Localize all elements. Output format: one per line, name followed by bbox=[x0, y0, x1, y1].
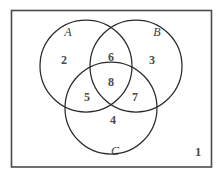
region-number-c-only: 4 bbox=[110, 113, 116, 127]
region-number-a-intersect-b: 6 bbox=[108, 50, 114, 64]
region-number-a-intersect-c: 5 bbox=[84, 90, 90, 104]
venn-diagram-svg: A B C 2 3 4 5 6 7 8 1 bbox=[0, 0, 222, 178]
region-number-b-intersect-c: 7 bbox=[132, 90, 138, 104]
region-number-a-only: 2 bbox=[61, 53, 67, 67]
region-number-outside: 1 bbox=[195, 145, 201, 159]
set-label-a: A bbox=[63, 25, 72, 39]
region-number-a-intersect-b-intersect-c: 8 bbox=[108, 75, 114, 89]
set-label-b: B bbox=[153, 25, 161, 39]
venn-diagram-canvas: A B C 2 3 4 5 6 7 8 1 bbox=[0, 0, 222, 178]
set-label-c: C bbox=[111, 144, 120, 158]
region-number-b-only: 3 bbox=[149, 53, 155, 67]
